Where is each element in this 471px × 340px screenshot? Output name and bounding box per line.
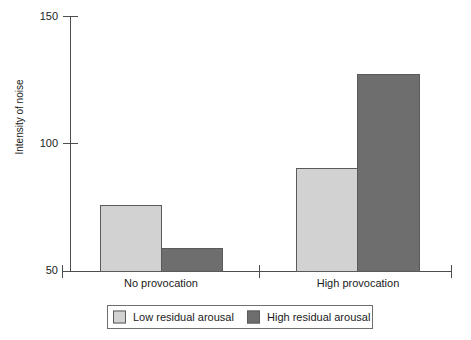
x-axis-tick-middle bbox=[259, 265, 260, 278]
chart-legend: Low residual arousal High residual arous… bbox=[107, 305, 373, 329]
legend-swatch-high-residual-arousal bbox=[247, 311, 260, 324]
legend-swatch-low-residual-arousal bbox=[113, 311, 126, 324]
y-tick-label-150: 150 bbox=[18, 11, 58, 22]
bar-high-provocation-low-residual-arousal bbox=[296, 168, 358, 272]
bar-high-provocation-high-residual-arousal bbox=[357, 74, 420, 272]
legend-entry-high-residual-arousal: High residual arousal bbox=[247, 311, 370, 324]
bar-no-provocation-low-residual-arousal bbox=[100, 205, 162, 272]
y-tick-label-100: 100 bbox=[18, 138, 58, 149]
x-axis-tick-end bbox=[451, 265, 452, 278]
x-category-label-high-provocation: High provocation bbox=[298, 277, 418, 290]
legend-label-high-residual-arousal: High residual arousal bbox=[267, 311, 370, 324]
x-category-label-no-provocation: No provocation bbox=[101, 277, 221, 290]
y-axis-title: Intensity of noise bbox=[15, 67, 25, 167]
legend-label-low-residual-arousal: Low residual arousal bbox=[133, 311, 234, 324]
legend-entry-low-residual-arousal: Low residual arousal bbox=[113, 311, 234, 324]
bar-chart-figure: Intensity of noise 150 100 50 No provoca… bbox=[0, 0, 471, 340]
bar-no-provocation-high-residual-arousal bbox=[161, 248, 223, 272]
y-axis-line bbox=[70, 16, 71, 272]
y-tick-label-50: 50 bbox=[18, 265, 58, 276]
x-axis-tick-start bbox=[62, 265, 63, 278]
